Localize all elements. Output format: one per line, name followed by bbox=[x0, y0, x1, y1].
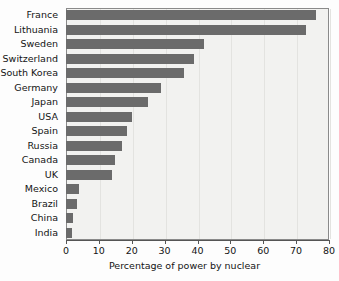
bar bbox=[66, 54, 194, 64]
bar bbox=[66, 170, 112, 180]
bar bbox=[66, 141, 122, 151]
x-tick-label: 10 bbox=[84, 245, 114, 256]
category-label: UK bbox=[0, 168, 62, 183]
bar bbox=[66, 199, 77, 209]
bar bbox=[66, 112, 132, 122]
bar-row bbox=[66, 52, 329, 67]
category-label: Mexico bbox=[0, 182, 62, 197]
x-tick bbox=[132, 240, 133, 244]
bar-row bbox=[66, 37, 329, 52]
bar-row bbox=[66, 124, 329, 139]
x-tick-label: 70 bbox=[281, 245, 311, 256]
category-label: Canada bbox=[0, 153, 62, 168]
category-label: Germany bbox=[0, 81, 62, 96]
bar-row bbox=[66, 95, 329, 110]
bar-row bbox=[66, 153, 329, 168]
bar bbox=[66, 97, 148, 107]
category-label: Switzerland bbox=[0, 52, 62, 67]
category-label: USA bbox=[0, 110, 62, 125]
x-axis-title: Percentage of power by nuclear bbox=[0, 260, 339, 271]
x-tick bbox=[296, 240, 297, 244]
x-tick bbox=[66, 240, 67, 244]
bars-layer bbox=[66, 8, 329, 240]
gridline bbox=[330, 9, 331, 239]
category-label: China bbox=[0, 211, 62, 226]
x-tick bbox=[329, 240, 330, 244]
x-tick bbox=[198, 240, 199, 244]
x-tick bbox=[230, 240, 231, 244]
category-label: Russia bbox=[0, 139, 62, 154]
bar bbox=[66, 213, 73, 223]
category-label: Spain bbox=[0, 124, 62, 139]
bar-row bbox=[66, 81, 329, 96]
x-tick-label: 80 bbox=[314, 245, 339, 256]
bar-row bbox=[66, 110, 329, 125]
x-tick-label: 40 bbox=[183, 245, 213, 256]
x-tick-label: 60 bbox=[248, 245, 278, 256]
x-tick-label: 0 bbox=[51, 245, 81, 256]
bar-row bbox=[66, 182, 329, 197]
x-tick-label: 20 bbox=[117, 245, 147, 256]
nuclear-power-bar-chart: FranceLithuaniaSwedenSwitzerlandSouth Ko… bbox=[0, 0, 339, 281]
bar-row bbox=[66, 8, 329, 23]
x-tick-label: 50 bbox=[215, 245, 245, 256]
bar bbox=[66, 228, 72, 238]
bar-row bbox=[66, 168, 329, 183]
bar-row bbox=[66, 139, 329, 154]
bar bbox=[66, 126, 127, 136]
bar bbox=[66, 83, 161, 93]
bar-row bbox=[66, 211, 329, 226]
x-tick bbox=[263, 240, 264, 244]
bar-row bbox=[66, 197, 329, 212]
bar bbox=[66, 155, 115, 165]
category-label: Lithuania bbox=[0, 23, 62, 38]
x-tick-label: 30 bbox=[150, 245, 180, 256]
bar bbox=[66, 10, 316, 20]
category-label: Sweden bbox=[0, 37, 62, 52]
bar bbox=[66, 68, 184, 78]
category-label: Japan bbox=[0, 95, 62, 110]
x-axis-title-text: Percentage of power by nuclear bbox=[109, 260, 260, 271]
category-label: Brazil bbox=[0, 197, 62, 212]
x-tick bbox=[99, 240, 100, 244]
bar-row bbox=[66, 23, 329, 38]
x-tick bbox=[165, 240, 166, 244]
bar bbox=[66, 25, 306, 35]
category-label: India bbox=[0, 226, 62, 241]
category-label: South Korea bbox=[0, 66, 62, 81]
bar-row bbox=[66, 226, 329, 241]
bar bbox=[66, 184, 79, 194]
category-label: France bbox=[0, 8, 62, 23]
category-axis-labels: FranceLithuaniaSwedenSwitzerlandSouth Ko… bbox=[0, 8, 62, 240]
bar-row bbox=[66, 66, 329, 81]
bar bbox=[66, 39, 204, 49]
